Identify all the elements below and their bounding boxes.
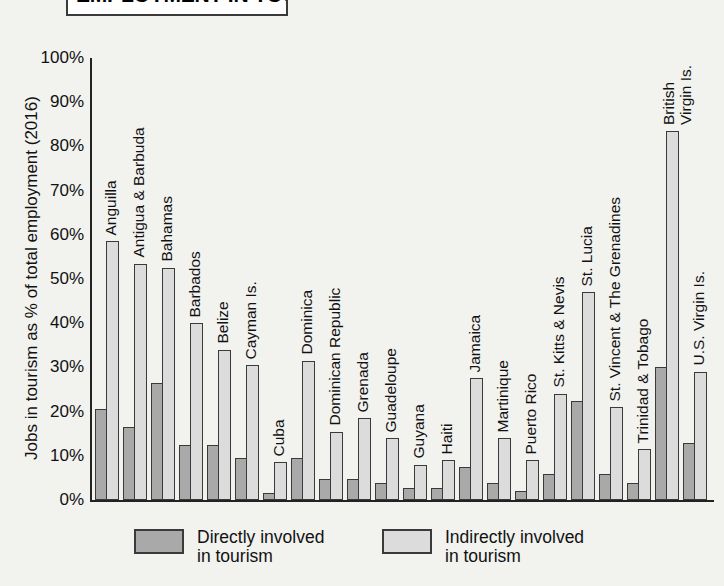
bar-indirect [442, 460, 455, 500]
bar-indirect [470, 378, 483, 500]
category-label: Dominican Republic [327, 288, 343, 426]
bar-group: St. Lucia [571, 58, 596, 500]
category-label: Martinique [495, 360, 511, 432]
bar-indirect [302, 361, 315, 500]
bar-indirect [106, 241, 119, 500]
bar-group: U.S. Virgin Is. [683, 58, 708, 500]
bar-group: Guadeloupe [375, 58, 400, 500]
bar-indirect [358, 418, 371, 500]
y-axis-tick-labels: 0%10%20%30%40%50%60%70%80%90%100% [0, 0, 90, 586]
legend-label-direct: Directly involved in tourism [197, 528, 324, 566]
chart-legend: Directly involved in tourism Indirectly … [0, 518, 724, 578]
bar-indirect [638, 449, 651, 500]
bar-group: Bahamas [151, 58, 176, 500]
category-label: St. Lucia [579, 226, 595, 286]
category-label: Trinidad & Tobago [635, 318, 651, 443]
plot-area: AnguillaAntigua & BarbudaBahamasBarbados… [90, 58, 714, 502]
y-tick-90: 90% [50, 93, 84, 110]
bar-group: Barbados [179, 58, 204, 500]
y-tick-80: 80% [50, 137, 84, 154]
legend-swatch-direct-icon [134, 529, 184, 554]
bar-indirect [666, 131, 679, 500]
category-label: St. Kitts & Nevis [551, 277, 567, 388]
category-label: Bahamas [159, 196, 175, 261]
bar-group: Dominica [291, 58, 316, 500]
category-label: U.S. Virgin Is. [691, 271, 707, 365]
bar-indirect [554, 394, 567, 500]
category-label: Dominica [299, 290, 315, 355]
bar-indirect [386, 438, 399, 500]
bar-group: Haiti [431, 58, 456, 500]
category-label: Antigua & Barbuda [131, 127, 147, 257]
bar-indirect [414, 465, 427, 500]
category-label: Cayman Is. [243, 281, 259, 359]
category-label: Guyana [411, 404, 427, 458]
legend-entry-direct: Directly involved in tourism [134, 528, 324, 566]
y-tick-0: 0% [59, 491, 84, 508]
y-tick-60: 60% [50, 226, 84, 243]
bar-indirect [274, 462, 287, 500]
bar-group: Cuba [263, 58, 288, 500]
y-tick-40: 40% [50, 314, 84, 331]
bar-indirect [610, 407, 623, 500]
bar-indirect [162, 268, 175, 500]
bar-group: Dominican Republic [319, 58, 344, 500]
legend-swatch-indirect-icon [382, 529, 432, 554]
bar-indirect [526, 460, 539, 500]
bar-group: St. Kitts & Nevis [543, 58, 568, 500]
category-label: Guadeloupe [383, 348, 399, 432]
y-tick-70: 70% [50, 182, 84, 199]
category-label: Puerto Rico [523, 373, 539, 454]
bar-indirect [498, 438, 511, 500]
category-label: Grenada [355, 352, 371, 412]
bar-group: Martinique [487, 58, 512, 500]
bar-group: Anguilla [95, 58, 120, 500]
tourism-employment-bar-chart: 0%10%20%30%40%50%60%70%80%90%100% Jobs i… [0, 0, 724, 586]
y-tick-10: 10% [50, 447, 84, 464]
bar-group: Jamaica [459, 58, 484, 500]
bar-group: Cayman Is. [235, 58, 260, 500]
category-label: Barbados [187, 251, 203, 317]
bar-indirect [218, 350, 231, 500]
y-tick-100: 100% [41, 49, 84, 66]
category-label: Belize [215, 302, 231, 344]
category-label: Cuba [271, 419, 287, 456]
legend-entry-indirect: Indirectly involved in tourism [382, 528, 584, 566]
bar-indirect [134, 264, 147, 500]
bar-group: Trinidad & Tobago [627, 58, 652, 500]
bar-indirect [582, 292, 595, 500]
bar-indirect [330, 432, 343, 501]
bar-indirect [190, 323, 203, 500]
y-tick-30: 30% [50, 358, 84, 375]
bar-group: Antigua & Barbuda [123, 58, 148, 500]
bar-group: Grenada [347, 58, 372, 500]
category-label: Haiti [439, 423, 455, 454]
y-axis-title: Jobs in tourism as % of total employment… [22, 78, 42, 478]
category-label: Anguilla [103, 180, 119, 235]
bar-group: Guyana [403, 58, 428, 500]
bar-group: British Virgin Is. [655, 58, 680, 500]
y-tick-50: 50% [50, 270, 84, 287]
bar-group: Belize [207, 58, 232, 500]
legend-label-indirect: Indirectly involved in tourism [445, 528, 584, 566]
bar-group: Puerto Rico [515, 58, 540, 500]
y-tick-20: 20% [50, 403, 84, 420]
category-label: St. Vincent & The Grenadines [607, 197, 623, 402]
bar-group: St. Vincent & The Grenadines [599, 58, 624, 500]
category-label: Jamaica [467, 315, 483, 373]
bar-indirect [694, 372, 707, 500]
bar-indirect [246, 365, 259, 500]
